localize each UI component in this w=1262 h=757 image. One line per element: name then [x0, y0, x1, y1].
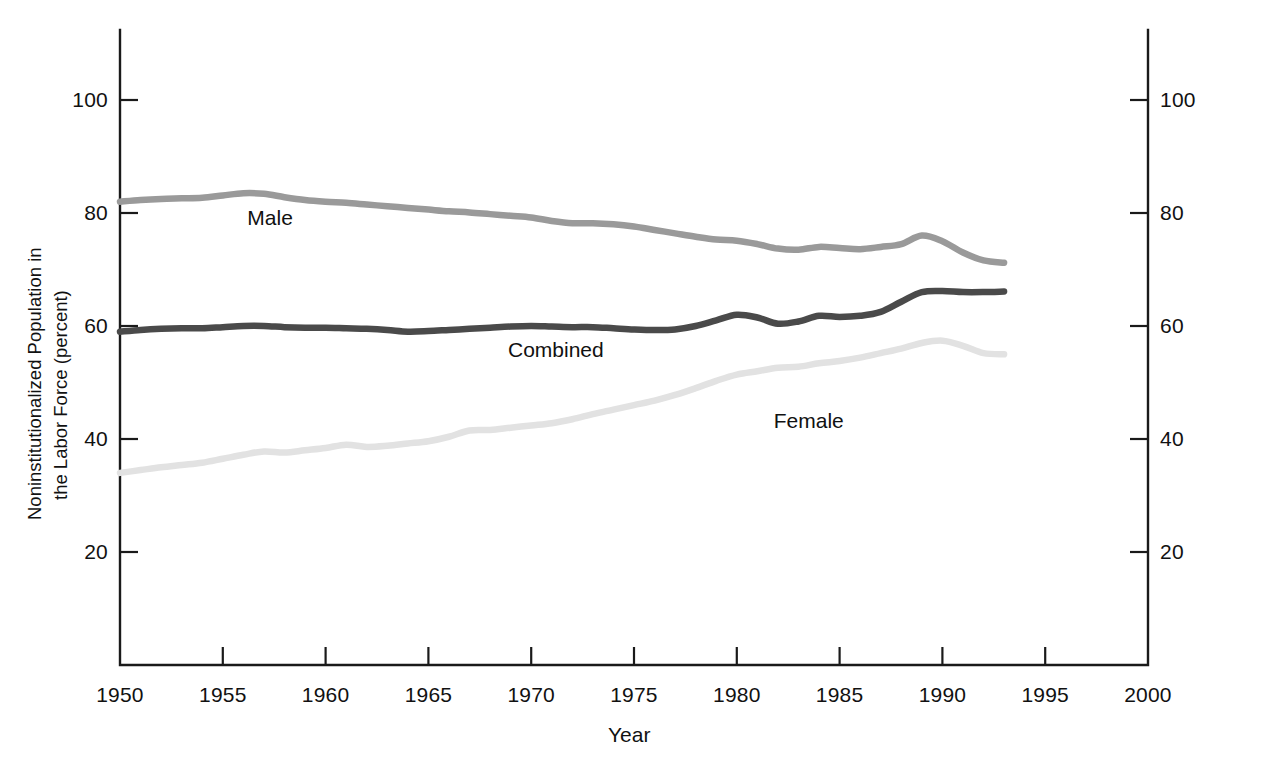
y-axis-tick-label-right: 80: [1160, 201, 1184, 225]
x-axis-tick-label: 1970: [507, 683, 555, 707]
x-axis-tick-label: 1960: [302, 683, 350, 707]
y-axis-tick-label-left: 20: [84, 540, 108, 564]
y-axis-title-line-2: the Labor Force (percent): [50, 290, 72, 500]
y-axis-tick-label-left: 40: [84, 427, 108, 451]
series-label-male: Male: [247, 206, 293, 230]
x-axis-tick-label: 1995: [1021, 683, 1069, 707]
x-axis-tick-label: 2000: [1124, 683, 1172, 707]
series-label-combined: Combined: [508, 338, 604, 362]
x-axis-tick-label: 1950: [96, 683, 144, 707]
x-axis-tick-label: 1980: [713, 683, 761, 707]
y-axis-tick-label-left: 100: [72, 88, 108, 112]
series-label-female: Female: [774, 409, 844, 433]
y-axis-tick-label-left: 60: [84, 314, 108, 338]
y-axis-title-line-1: Noninstitutionalized Population in: [24, 247, 46, 520]
y-axis-title: Noninstitutionalized Population in the L…: [0, 0, 68, 700]
x-axis-tick-label: 1955: [199, 683, 247, 707]
chart-plot-area: [0, 0, 1262, 757]
series-line-combined: [120, 291, 1004, 332]
x-axis-title: Year: [608, 723, 650, 747]
y-axis-tick-label-right: 100: [1160, 88, 1196, 112]
x-axis-tick-label: 1965: [405, 683, 453, 707]
y-axis-tick-label-right: 60: [1160, 314, 1184, 338]
x-axis-tick-label: 1975: [610, 683, 658, 707]
y-axis-tick-label-right: 40: [1160, 427, 1184, 451]
y-axis-tick-label-right: 20: [1160, 540, 1184, 564]
x-axis-tick-label: 1985: [816, 683, 864, 707]
chart-figure: Noninstitutionalized Population in the L…: [0, 0, 1262, 757]
y-axis-tick-label-left: 80: [84, 201, 108, 225]
x-axis-tick-label: 1990: [919, 683, 967, 707]
